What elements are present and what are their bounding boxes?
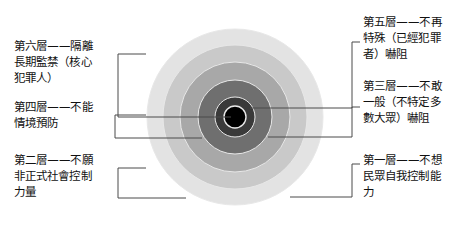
ring-core-1	[224, 106, 246, 128]
label-layer-two: 第二層——不願 非正式社會控制 力量	[14, 152, 134, 200]
label-layer-five: 第五層——不再 特殊（已經犯罪 者）嚇阻	[363, 14, 467, 62]
label-layer-six: 第六層——隔離 長期監禁（核心 犯罪人）	[14, 38, 134, 86]
concentric-layers-diagram: 第六層——隔離 長期監禁（核心 犯罪人） 第四層——不能 情境預防 第二層——不…	[0, 0, 470, 236]
label-layer-one: 第一層——不想 民眾自我控制能 力	[363, 152, 467, 200]
label-layer-three: 第三層——不敢 一般（不特定多 數大眾）嚇阻	[363, 78, 467, 126]
label-layer-four: 第四層——不能 情境預防	[14, 99, 134, 131]
